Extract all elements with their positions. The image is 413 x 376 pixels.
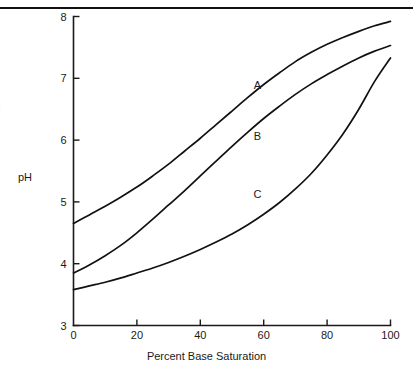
x-tick-label-80: 80 <box>321 329 333 341</box>
y-axis-tick-labels: 345678 <box>60 11 66 332</box>
x-axis-title: Percent Base Saturation <box>0 350 413 362</box>
axes-group <box>74 17 391 326</box>
x-tick-label-60: 60 <box>258 329 270 341</box>
x-tick-label-20: 20 <box>131 329 143 341</box>
y-tick-label-3: 3 <box>60 320 66 332</box>
x-tick-label-100: 100 <box>381 329 399 341</box>
data-curves <box>74 21 391 289</box>
curve-A <box>74 21 391 223</box>
curve-labels: ABC <box>253 79 261 200</box>
x-axis-ticks <box>137 320 391 326</box>
figure-root: d pH 345678 020406080100 ABC Percent Bas… <box>0 0 413 376</box>
curve-label-C: C <box>253 188 261 200</box>
curve-B <box>74 46 391 273</box>
x-axis-tick-labels: 020406080100 <box>70 329 399 341</box>
curve-label-B: B <box>254 130 261 142</box>
y-tick-label-4: 4 <box>60 258 66 270</box>
y-axis-ticks <box>74 17 80 326</box>
curve-label-A: A <box>254 79 262 91</box>
x-tick-label-40: 40 <box>194 329 206 341</box>
y-tick-label-8: 8 <box>60 11 66 23</box>
curve-C <box>74 58 391 290</box>
chart-plot-area: 345678 020406080100 ABC <box>0 0 413 376</box>
y-tick-label-6: 6 <box>60 134 66 146</box>
x-tick-label-0: 0 <box>70 329 76 341</box>
y-tick-label-5: 5 <box>60 196 66 208</box>
y-tick-label-7: 7 <box>60 72 66 84</box>
